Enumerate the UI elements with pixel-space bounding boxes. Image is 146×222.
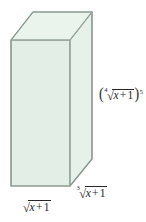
radical-height: 4√x+1 — [104, 89, 135, 102]
prism-front-face — [11, 40, 70, 186]
radical-depth: 3√x+1 — [76, 186, 107, 199]
radicand-number: 1 — [128, 89, 134, 101]
radicand-height: x+1 — [112, 89, 134, 102]
radicand-operator: + — [119, 89, 128, 101]
label-height: (4√x+1)5 — [99, 88, 143, 102]
prism-drawing — [0, 0, 146, 222]
radicand-number: 1 — [100, 187, 106, 199]
prism-figure: √x+1 3√x+1 (4√x+1)5 — [0, 0, 146, 222]
exponent-height: 5 — [140, 88, 144, 96]
radicand-operator: + — [91, 187, 100, 199]
label-width: √x+1 — [23, 200, 51, 213]
radicand-depth: x+1 — [85, 186, 107, 199]
radicand-variable: x — [29, 201, 34, 213]
radicand-number: 1 — [44, 201, 50, 213]
radicand-width: x+1 — [28, 200, 50, 213]
radicand-operator: + — [35, 201, 44, 213]
radical-sign-icon: √ — [107, 90, 114, 103]
prism-side-face — [70, 12, 92, 186]
radical-sign-icon: √ — [23, 201, 30, 214]
radical-width: √x+1 — [23, 200, 51, 213]
close-paren: ) — [134, 87, 139, 103]
label-depth: 3√x+1 — [76, 186, 107, 199]
radical-sign-icon: √ — [79, 187, 86, 200]
radicand-variable: x — [113, 89, 118, 101]
